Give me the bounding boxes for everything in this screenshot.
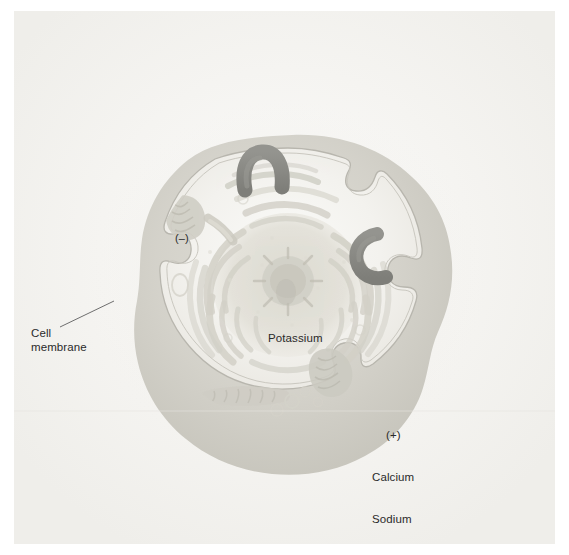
cell-illustration-canvas [0,0,569,555]
cell-diagram-figure: Cell membrane Potassium (–) (+) Calcium … [0,0,569,555]
label-calcium: Calcium [372,470,414,484]
label-positive-ion-group: (+) Calcium Sodium [372,400,414,554]
label-sodium: Sodium [372,512,414,526]
label-cell-membrane: Cell membrane [31,326,87,354]
label-potassium: Potassium [268,331,323,345]
label-negative-charge: (–) [175,231,189,245]
label-positive-charge: (+) [372,428,414,442]
